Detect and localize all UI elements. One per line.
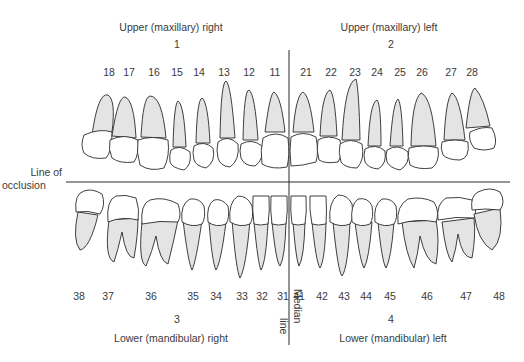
teeth-diagram — [0, 0, 524, 362]
tooth-46 — [398, 198, 438, 268]
tooth-22 — [317, 90, 341, 163]
tooth-33 — [230, 196, 253, 278]
tooth-38 — [75, 190, 103, 250]
tooth-25 — [386, 99, 408, 170]
tooth-24 — [364, 100, 385, 169]
tooth-43 — [330, 195, 353, 276]
tooth-12 — [240, 90, 262, 166]
tooth-21 — [290, 92, 318, 166]
tooth-14 — [193, 98, 214, 168]
tooth-23 — [339, 79, 363, 168]
tooth-17 — [109, 97, 138, 163]
tooth-45 — [375, 199, 397, 268]
tooth-31 — [271, 196, 288, 266]
tooth-37 — [107, 195, 138, 262]
tooth-34 — [208, 200, 229, 270]
tooth-47 — [438, 197, 476, 262]
tooth-11 — [261, 92, 289, 168]
tooth-13 — [217, 81, 238, 167]
tooth-41 — [291, 196, 307, 266]
tooth-35 — [182, 199, 205, 270]
tooth-42 — [310, 196, 327, 268]
tooth-28 — [466, 88, 496, 150]
tooth-44 — [352, 199, 373, 268]
tooth-32 — [253, 196, 270, 270]
tooth-16 — [137, 96, 168, 169]
tooth-27 — [441, 93, 468, 160]
tooth-48 — [472, 189, 503, 250]
tooth-26 — [408, 93, 438, 169]
tooth-15 — [170, 101, 191, 170]
tooth-36 — [141, 199, 180, 266]
tooth-18 — [82, 95, 113, 159]
